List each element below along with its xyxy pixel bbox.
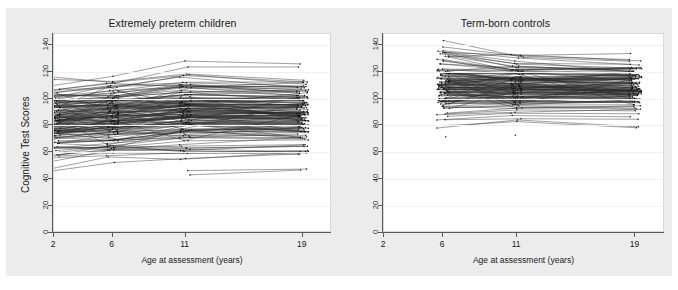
data-point <box>511 78 513 80</box>
x-tick-label: 19 <box>630 239 639 249</box>
data-point <box>109 145 111 147</box>
data-point <box>514 60 516 62</box>
data-point <box>634 110 636 112</box>
data-point <box>181 118 183 120</box>
y-tick-label: 120 <box>41 60 50 82</box>
x-axis-title: Age at assessment (years) <box>383 255 664 265</box>
x-tick-label: 11 <box>512 239 521 249</box>
data-point <box>180 96 182 98</box>
data-point <box>107 144 109 146</box>
data-point <box>520 118 522 120</box>
data-point <box>517 119 519 121</box>
data-point <box>442 52 444 54</box>
data-point <box>296 95 298 97</box>
data-point <box>181 128 183 130</box>
data-point <box>189 149 191 151</box>
data-point <box>301 123 303 125</box>
data-point <box>191 100 193 102</box>
gridline <box>384 99 663 100</box>
data-point <box>117 122 119 124</box>
x-tick <box>634 233 635 237</box>
data-point <box>110 109 112 111</box>
data-point <box>633 104 635 106</box>
data-point <box>436 119 438 121</box>
panel-control: Term-born controls 020406080100120140261… <box>339 8 672 276</box>
data-point <box>306 92 308 94</box>
data-point <box>107 107 109 109</box>
data-point <box>436 78 438 80</box>
data-point <box>299 153 301 155</box>
y-tick-label: 140 <box>41 33 50 55</box>
data-point <box>112 115 114 117</box>
y-axis-line <box>52 33 53 232</box>
data-point <box>510 54 512 56</box>
gridline <box>54 179 330 180</box>
data-point <box>520 55 522 57</box>
panel-title-preterm: Extremely preterm children <box>6 17 339 29</box>
data-point <box>631 88 633 90</box>
data-point <box>513 101 515 103</box>
data-point <box>307 91 309 93</box>
data-point <box>109 103 111 105</box>
x-axis-title: Age at assessment (years) <box>53 255 331 265</box>
data-point <box>641 93 643 95</box>
data-point <box>630 53 632 55</box>
data-point <box>444 93 446 95</box>
data-point <box>179 102 181 104</box>
data-point <box>189 174 191 176</box>
data-point <box>305 117 307 119</box>
data-point <box>440 91 442 93</box>
data-point <box>636 74 638 76</box>
data-point <box>637 118 639 120</box>
data-point <box>443 107 445 109</box>
y-tick-label: 120 <box>371 60 380 82</box>
data-point <box>296 109 298 111</box>
data-point <box>118 91 120 93</box>
data-point <box>631 78 633 80</box>
data-point <box>437 88 439 90</box>
data-point <box>59 130 61 132</box>
x-axis-line <box>382 232 664 233</box>
data-point <box>635 91 637 93</box>
data-point <box>303 82 305 84</box>
data-point <box>446 89 448 91</box>
data-point <box>439 53 441 55</box>
data-point <box>54 135 56 137</box>
data-point <box>110 87 112 89</box>
data-point <box>636 127 638 128</box>
data-point <box>113 145 115 147</box>
data-point <box>439 78 441 80</box>
data-point <box>55 150 57 152</box>
y-tick-label: 0 <box>371 221 380 243</box>
data-point <box>436 59 438 61</box>
data-point <box>297 133 299 135</box>
data-point <box>109 90 111 92</box>
data-point <box>636 90 638 92</box>
data-point <box>305 120 307 122</box>
data-point <box>518 57 520 59</box>
data-point <box>440 103 442 105</box>
data-point <box>442 101 444 103</box>
data-point <box>181 116 183 118</box>
data-point <box>301 106 303 108</box>
data-point <box>58 121 60 123</box>
data-point <box>299 93 301 95</box>
data-point <box>523 57 525 59</box>
data-point <box>437 50 439 52</box>
data-point <box>512 69 514 71</box>
data-point <box>115 105 117 107</box>
data-point <box>304 95 306 97</box>
data-point <box>640 105 642 107</box>
data-point <box>300 88 302 90</box>
data-point <box>116 87 118 89</box>
y-tick-label: 40 <box>371 167 380 189</box>
data-point <box>180 120 182 122</box>
data-point <box>635 78 637 80</box>
spaghetti-lines-control <box>384 34 665 233</box>
data-point <box>186 73 188 75</box>
data-point <box>440 87 442 89</box>
x-tick-label: 6 <box>109 239 114 249</box>
gridline <box>384 206 663 207</box>
data-point <box>306 136 308 138</box>
data-point <box>304 87 306 89</box>
